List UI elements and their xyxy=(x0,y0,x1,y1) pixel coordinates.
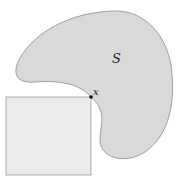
diagram-canvas: S x xyxy=(0,0,181,183)
point-label-x: x xyxy=(93,86,99,97)
square-region xyxy=(6,97,91,175)
set-label-s: S xyxy=(112,51,121,66)
